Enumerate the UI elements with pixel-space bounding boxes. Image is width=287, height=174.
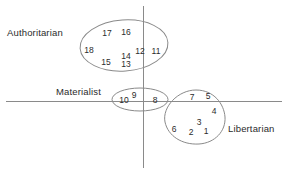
- data-point-materialist-8: 8: [153, 95, 158, 105]
- data-point-authoritarian-16: 16: [121, 27, 130, 37]
- data-point-libertarian-5: 5: [206, 91, 211, 101]
- data-point-materialist-9: 9: [132, 90, 137, 100]
- libertarian-cluster-outline: [165, 90, 225, 144]
- data-point-authoritarian-12: 12: [135, 46, 144, 56]
- cluster-label-authoritarian: Authoritarian: [7, 27, 63, 38]
- data-point-authoritarian-13: 13: [121, 59, 130, 69]
- cluster-label-materialist: Materialist: [56, 86, 101, 97]
- data-point-libertarian-1: 1: [204, 126, 209, 136]
- data-point-materialist-10: 10: [119, 95, 128, 105]
- data-point-authoritarian-15: 15: [101, 57, 110, 67]
- data-point-authoritarian-11: 11: [152, 46, 161, 56]
- cluster-label-libertarian: Libertarian: [228, 123, 275, 134]
- data-point-libertarian-7: 7: [190, 92, 195, 102]
- data-point-libertarian-4: 4: [212, 106, 217, 116]
- data-point-libertarian-2: 2: [189, 127, 194, 137]
- diagram-canvas: Authoritarian Materialist Libertarian 17…: [0, 0, 287, 174]
- data-point-authoritarian-17: 17: [102, 28, 111, 38]
- data-point-authoritarian-18: 18: [84, 45, 93, 55]
- data-point-libertarian-6: 6: [172, 124, 177, 134]
- data-point-libertarian-3: 3: [197, 117, 202, 127]
